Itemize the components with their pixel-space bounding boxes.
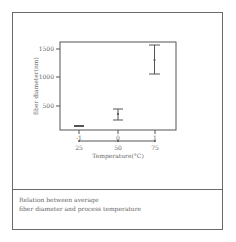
x-tick-label: 75 (151, 144, 159, 151)
x-axis-title: Temperature(°C) (92, 152, 144, 160)
y-tick-label: 1000 (39, 73, 54, 80)
y-tick-label: 1500 (39, 45, 54, 52)
x-tick-label: 50 (114, 144, 122, 151)
x-coded-tick-label: 0 (116, 134, 120, 141)
caption-line: fiber diameter and process temperature (19, 204, 219, 213)
caption-line: Relation between average (19, 195, 219, 204)
y-axis: 1500 1000 500 fiber diameter(nm) (32, 45, 60, 115)
y-axis-title: fiber diameter(nm) (32, 57, 39, 115)
x-axis-coded: -1 0 1 (76, 130, 157, 141)
x-axis: 25 50 75 Temperature(°C) (75, 140, 159, 160)
figure-caption: Relation between average fiber diameter … (19, 195, 219, 213)
error-bar-50 (113, 109, 123, 120)
error-bar-75 (149, 45, 160, 74)
x-tick-label: 25 (75, 144, 83, 151)
error-bar-25 (74, 125, 84, 127)
x-coded-tick-label: -1 (76, 134, 82, 141)
x-coded-tick-label: 1 (153, 134, 157, 141)
y-tick-label: 500 (43, 102, 55, 109)
